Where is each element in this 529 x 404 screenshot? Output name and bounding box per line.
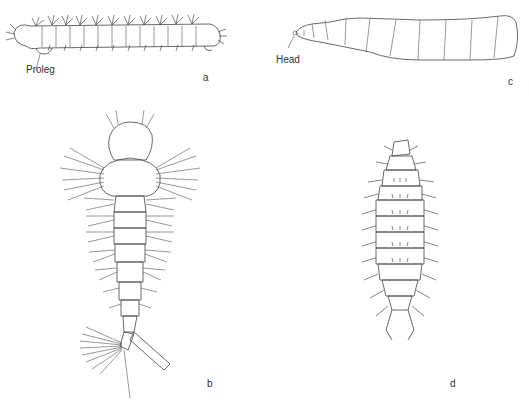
- larva-d-illustration: [362, 140, 438, 340]
- larva-c-illustration: [288, 16, 518, 60]
- larva-a-illustration: [6, 14, 227, 70]
- proleg-annotation: Proleg: [26, 64, 55, 75]
- figure-canvas: [0, 0, 529, 404]
- panel-label-c: c: [508, 76, 513, 87]
- panel-label-b: b: [207, 378, 213, 389]
- head-annotation: Head: [276, 54, 300, 65]
- panel-label-d: d: [450, 378, 456, 389]
- panel-label-a: a: [203, 72, 209, 83]
- larva-b-illustration: [60, 110, 200, 398]
